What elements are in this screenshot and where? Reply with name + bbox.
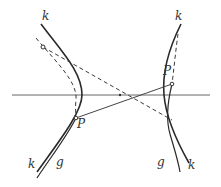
curve-g-left-dashed	[36, 38, 76, 118]
chord-P-P	[76, 84, 172, 118]
label-k-bottom-right: k	[188, 158, 195, 172]
label-k-top-left: k	[42, 9, 49, 23]
curve-g-right	[168, 84, 180, 172]
dashed-line	[43, 47, 172, 120]
label-k-top-right: k	[175, 9, 182, 23]
label-k-bottom-left: k	[28, 157, 35, 171]
point-P-right	[170, 82, 174, 86]
circle-point	[41, 45, 45, 49]
curve-g-left	[37, 118, 76, 178]
label-P-right: P	[162, 64, 172, 78]
hyperbola-diagram: k k k g g k P P	[0, 0, 221, 187]
label-g-bottom-right: g	[157, 155, 165, 169]
label-P-left: P	[76, 117, 86, 131]
center-point	[119, 94, 121, 96]
diagram-canvas: k k k g g k P P	[0, 0, 221, 187]
curve-k-right	[164, 24, 189, 163]
label-g-bottom-left: g	[56, 155, 64, 169]
